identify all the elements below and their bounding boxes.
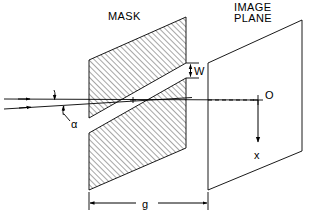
- origin-label: O: [265, 89, 274, 101]
- mask-title: MASK: [108, 10, 141, 22]
- image-plane-surface: [208, 20, 302, 190]
- axis-center-cross-marker: [130, 97, 136, 103]
- gap-distance-label: g: [142, 198, 148, 210]
- ray-direction-tick-icon: [54, 90, 55, 100]
- gap-distance-dimension: [89, 192, 208, 210]
- x-axis-label: x: [254, 149, 260, 161]
- optical-mask-diagram: α O x W: [0, 0, 313, 220]
- incidence-angle-label: α: [71, 118, 78, 130]
- incidence-angle-leader: [63, 106, 70, 121]
- image-plane-title-line2: PLANE: [234, 12, 272, 24]
- slit-width-label: W: [194, 65, 205, 77]
